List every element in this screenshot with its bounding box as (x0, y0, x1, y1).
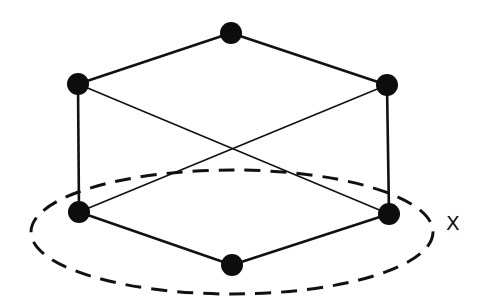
node-upper-right (376, 74, 398, 96)
edges (78, 33, 389, 265)
node-bottom (221, 254, 243, 276)
node-lower-left (68, 201, 90, 223)
hasse-diagram: X (0, 0, 486, 307)
edge-upper-left-lower-left (78, 84, 79, 212)
edge-lower-left-bottom (79, 212, 232, 265)
edge-top-upper-left (78, 33, 231, 84)
ellipse-label: X (446, 211, 460, 235)
edge-top-upper-right (231, 33, 387, 85)
edge-upper-right-lower-right (387, 85, 389, 214)
edge-lower-right-bottom (232, 214, 389, 265)
node-top (220, 22, 242, 44)
node-lower-right (378, 203, 400, 225)
node-upper-left (67, 73, 89, 95)
